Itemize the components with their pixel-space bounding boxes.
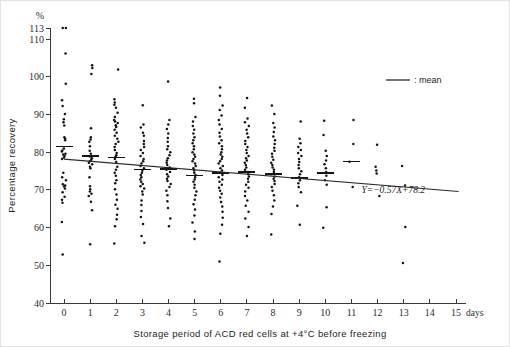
data-point — [219, 232, 222, 235]
data-point — [165, 189, 168, 192]
data-point — [192, 167, 195, 170]
data-point — [117, 141, 120, 144]
data-point — [166, 128, 169, 130]
data-point — [114, 143, 117, 146]
data-point — [90, 127, 93, 129]
data-point — [91, 67, 94, 70]
data-point — [221, 128, 224, 130]
data-point — [299, 142, 302, 145]
data-point — [115, 131, 118, 134]
data-point — [219, 86, 222, 89]
data-point — [88, 141, 91, 144]
data-point — [61, 105, 64, 108]
y-tick-label: 40 — [34, 298, 44, 309]
data-point — [247, 155, 250, 158]
data-point — [168, 225, 171, 228]
data-point — [169, 183, 172, 186]
data-point — [115, 174, 118, 177]
data-point — [143, 146, 146, 149]
data-point — [114, 149, 117, 152]
data-point — [61, 202, 64, 205]
data-point — [217, 162, 220, 165]
data-point — [61, 221, 64, 224]
data-point — [194, 199, 197, 202]
data-point — [168, 154, 171, 157]
data-point — [191, 160, 194, 163]
data-point — [90, 193, 93, 196]
data-point — [247, 180, 250, 183]
data-point — [142, 158, 145, 161]
x-axis-unit: days — [466, 308, 484, 318]
data-point — [272, 159, 275, 162]
data-point — [113, 104, 116, 107]
data-point — [89, 188, 92, 191]
data-point — [91, 163, 94, 166]
data-point — [192, 158, 195, 161]
data-point — [245, 149, 248, 152]
data-point — [220, 139, 223, 142]
data-point — [140, 204, 143, 207]
x-tick-label: 8 — [271, 307, 276, 318]
data-point — [117, 68, 120, 71]
data-point — [91, 64, 94, 67]
data-point — [298, 167, 301, 170]
data-point — [193, 136, 196, 139]
data-point — [140, 162, 143, 165]
data-point — [271, 156, 274, 159]
data-point — [247, 211, 250, 214]
data-point — [273, 194, 276, 197]
data-point — [142, 223, 145, 226]
data-point — [194, 230, 197, 233]
data-point — [244, 162, 247, 165]
data-point — [191, 151, 194, 154]
data-point — [142, 104, 145, 107]
data-point — [115, 168, 118, 171]
data-point — [113, 171, 116, 174]
data-point — [221, 174, 224, 177]
data-point — [270, 162, 273, 165]
x-tick-label: 13 — [399, 307, 409, 318]
data-point — [90, 200, 93, 203]
data-point — [246, 199, 249, 202]
data-point — [139, 178, 142, 181]
y-axis-title: Percentage recovery — [6, 118, 17, 212]
data-point — [114, 225, 117, 228]
data-point — [114, 116, 117, 119]
data-point — [248, 175, 251, 178]
data-points — [61, 27, 407, 265]
data-point — [64, 52, 67, 55]
data-point — [218, 123, 221, 126]
data-point — [195, 165, 198, 168]
x-tick-label: 9 — [297, 307, 302, 318]
data-point — [244, 217, 247, 220]
data-point — [299, 179, 302, 182]
data-point — [375, 172, 378, 175]
data-point — [221, 211, 224, 214]
data-point — [91, 209, 94, 212]
data-point — [61, 150, 64, 153]
data-point — [194, 208, 197, 211]
data-point — [322, 134, 325, 137]
data-point — [193, 186, 196, 189]
data-point — [221, 156, 224, 159]
data-point — [88, 195, 91, 198]
data-point — [221, 217, 224, 220]
data-point — [88, 176, 91, 179]
data-point — [193, 238, 196, 241]
data-point — [271, 189, 274, 192]
x-axis-title: Storage period of ACD red cells at +4°C … — [133, 328, 386, 339]
data-point — [244, 121, 247, 124]
data-point — [218, 186, 221, 189]
data-point — [116, 138, 119, 141]
data-point — [219, 95, 222, 98]
y-tick-label: 60 — [34, 222, 44, 233]
figure-container: 405060708090100110113%012345678910111213… — [0, 0, 510, 347]
data-point — [113, 98, 116, 101]
data-point — [325, 167, 328, 170]
data-point — [141, 183, 144, 186]
data-point — [64, 153, 67, 156]
data-point — [166, 141, 169, 144]
data-point — [221, 205, 224, 208]
data-point — [218, 119, 221, 122]
data-point — [191, 221, 194, 224]
